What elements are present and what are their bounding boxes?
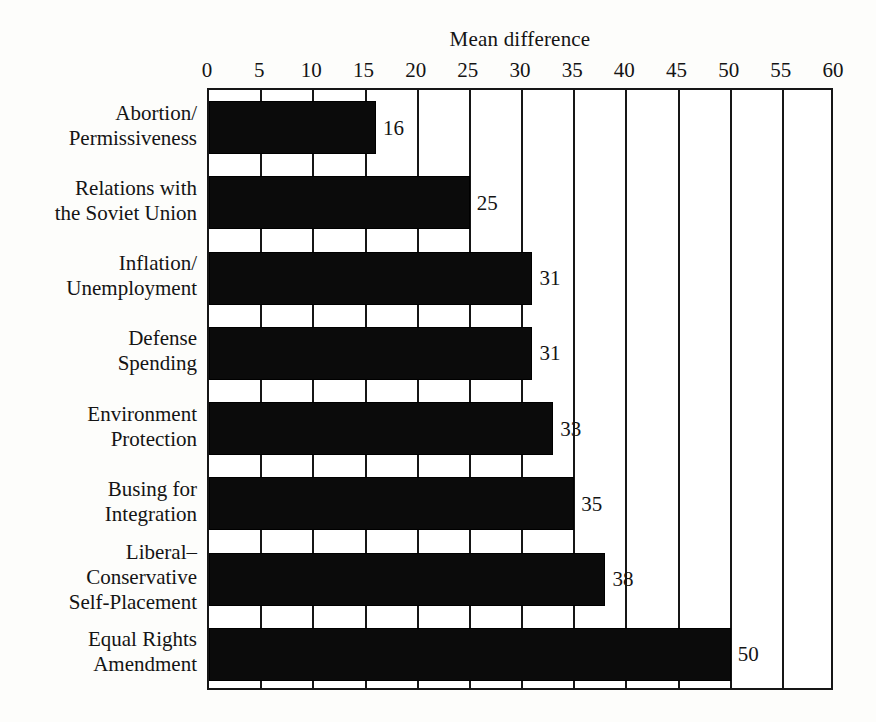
category-label-line: Equal Rights bbox=[88, 627, 197, 652]
chart-figure: Mean difference 051015202530354045505560… bbox=[0, 0, 876, 722]
x-tick-label: 5 bbox=[237, 58, 281, 82]
category-label: Relations withthe Soviet Union bbox=[0, 163, 197, 238]
category-label-line: Relations with bbox=[75, 176, 197, 201]
category-label-line: Busing for bbox=[108, 477, 197, 502]
chart-title: Mean difference bbox=[207, 27, 833, 51]
category-label-line: Environment bbox=[87, 402, 197, 427]
bar-value-label: 25 bbox=[470, 192, 498, 214]
category-label-line: Inflation/ bbox=[119, 251, 197, 276]
bar-value-label: 33 bbox=[553, 418, 581, 440]
bar-row: 35 bbox=[209, 477, 831, 530]
x-tick-label: 40 bbox=[602, 58, 646, 82]
category-label-line: Protection bbox=[111, 427, 197, 452]
category-label: EnvironmentProtection bbox=[0, 389, 197, 464]
bar-row: 50 bbox=[209, 628, 831, 681]
category-label-line: Unemployment bbox=[66, 276, 197, 301]
bar bbox=[209, 176, 470, 229]
category-label-line: Integration bbox=[105, 502, 197, 527]
bar bbox=[209, 327, 532, 380]
x-tick-label: 30 bbox=[498, 58, 542, 82]
bar bbox=[209, 402, 553, 455]
category-label-line: Conservative bbox=[86, 565, 197, 590]
bars-layer: 1625313133353850 bbox=[209, 90, 831, 688]
bar-row: 25 bbox=[209, 176, 831, 229]
bar bbox=[209, 252, 532, 305]
category-label-line: Amendment bbox=[93, 652, 197, 677]
bar-row: 31 bbox=[209, 252, 831, 305]
x-tick-label: 60 bbox=[811, 58, 855, 82]
category-label: DefenseSpending bbox=[0, 314, 197, 389]
bar bbox=[209, 553, 605, 606]
category-label-line: Permissiveness bbox=[69, 126, 197, 151]
bar bbox=[209, 101, 376, 154]
x-tick-label: 50 bbox=[707, 58, 751, 82]
bar-value-label: 50 bbox=[731, 643, 759, 665]
category-label: Abortion/Permissiveness bbox=[0, 88, 197, 163]
bar-value-label: 35 bbox=[574, 493, 602, 515]
category-label-line: the Soviet Union bbox=[55, 201, 197, 226]
x-tick-label: 0 bbox=[185, 58, 229, 82]
plot-area: 1625313133353850 bbox=[207, 88, 833, 690]
bar-row: 31 bbox=[209, 327, 831, 380]
bar-value-label: 31 bbox=[532, 342, 560, 364]
x-tick-label: 10 bbox=[289, 58, 333, 82]
category-label: Equal RightsAmendment bbox=[0, 615, 197, 690]
category-label-line: Defense bbox=[128, 326, 197, 351]
bar-row: 38 bbox=[209, 553, 831, 606]
category-label: Busing forIntegration bbox=[0, 464, 197, 539]
bar-row: 33 bbox=[209, 402, 831, 455]
category-label-line: Abortion/ bbox=[115, 101, 197, 126]
x-tick-label: 20 bbox=[394, 58, 438, 82]
bar-row: 16 bbox=[209, 101, 831, 154]
x-tick-label: 45 bbox=[655, 58, 699, 82]
category-axis-labels: Abortion/PermissivenessRelations withthe… bbox=[0, 88, 197, 690]
category-label: Inflation/Unemployment bbox=[0, 239, 197, 314]
bar-value-label: 38 bbox=[605, 568, 633, 590]
category-label-line: Self-Placement bbox=[69, 590, 197, 615]
bar-value-label: 16 bbox=[376, 117, 404, 139]
x-tick-label: 55 bbox=[759, 58, 803, 82]
x-axis-tick-labels: 051015202530354045505560 bbox=[0, 58, 876, 84]
x-tick-label: 35 bbox=[550, 58, 594, 82]
category-label: Liberal–ConservativeSelf-Placement bbox=[0, 540, 197, 615]
bar-value-label: 31 bbox=[532, 267, 560, 289]
category-label-line: Spending bbox=[118, 351, 197, 376]
category-label-line: Liberal– bbox=[126, 540, 197, 565]
bar bbox=[209, 477, 574, 530]
x-tick-label: 25 bbox=[446, 58, 490, 82]
x-tick-label: 15 bbox=[342, 58, 386, 82]
bar bbox=[209, 628, 731, 681]
